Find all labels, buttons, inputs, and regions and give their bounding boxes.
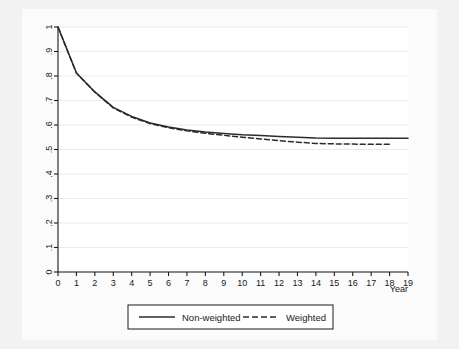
y-axis-tick-label: .8 bbox=[44, 72, 54, 80]
y-axis-tick-label: .2 bbox=[44, 219, 54, 227]
x-axis-tick-label: 12 bbox=[274, 278, 284, 288]
legend: Non-weighted Weighted bbox=[128, 305, 333, 329]
x-axis-tick-label: 13 bbox=[292, 278, 302, 288]
y-axis-tick-label: .6 bbox=[44, 121, 54, 129]
x-axis-tick-label: 1 bbox=[74, 278, 79, 288]
legend-label-weighted: Weighted bbox=[286, 312, 326, 323]
line-chart: 0.1.2.3.4.5.6.7.8.91 0123456789101112131… bbox=[0, 0, 459, 349]
x-axis-tick-label: 16 bbox=[348, 278, 358, 288]
x-axis-tick-label: 9 bbox=[221, 278, 226, 288]
x-axis-tick-label: 11 bbox=[256, 278, 265, 288]
y-axis-tick-label: .1 bbox=[44, 244, 54, 252]
y-axis-tick-label: .7 bbox=[44, 97, 54, 105]
x-axis-tick-label: 5 bbox=[148, 278, 153, 288]
x-axis-tick-label: 14 bbox=[311, 278, 321, 288]
x-axis-tick-label: 3 bbox=[111, 278, 116, 288]
x-axis-tick-label: 17 bbox=[366, 278, 376, 288]
x-axis-tick-label: 8 bbox=[203, 278, 208, 288]
y-axis-tick-label: 0 bbox=[44, 269, 54, 274]
y-axis-tick-label: .9 bbox=[44, 48, 54, 56]
x-axis-ticks bbox=[58, 272, 408, 276]
y-axis-tick-label: .5 bbox=[44, 146, 54, 154]
x-axis-tick-labels: 012345678910111213141516171819 bbox=[55, 278, 413, 288]
x-axis-tick-label: 10 bbox=[237, 278, 247, 288]
x-axis-title: Year bbox=[390, 284, 408, 294]
x-axis-tick-label: 0 bbox=[55, 278, 60, 288]
x-axis-tick-label: 6 bbox=[166, 278, 171, 288]
y-axis-tick-label: .3 bbox=[44, 195, 54, 203]
y-axis-tick-label: 1 bbox=[44, 24, 54, 29]
x-axis-tick-label: 2 bbox=[92, 278, 97, 288]
y-axis-tick-label: .4 bbox=[44, 170, 54, 178]
x-axis-tick-label: 7 bbox=[184, 278, 189, 288]
figure-canvas: 0.1.2.3.4.5.6.7.8.91 0123456789101112131… bbox=[0, 0, 459, 349]
y-axis-tick-labels: 0.1.2.3.4.5.6.7.8.91 bbox=[44, 24, 54, 274]
legend-label-non-weighted: Non-weighted bbox=[182, 312, 241, 323]
y-axis-ticks bbox=[54, 27, 58, 272]
x-axis-tick-label: 15 bbox=[329, 278, 339, 288]
x-axis-tick-label: 4 bbox=[129, 278, 134, 288]
